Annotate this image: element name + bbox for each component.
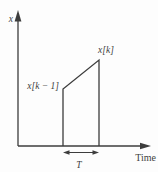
x-axis-label: Time: [135, 152, 156, 163]
interval-arrowhead-left-icon: [63, 150, 70, 154]
trapezoid-outline: [63, 60, 99, 146]
y-axis-arrowhead-icon: [15, 10, 22, 22]
interval-arrowhead-right-icon: [93, 150, 100, 154]
sample-previous-label: x[k − 1]: [26, 81, 59, 91]
figure-svg: x Time x[k] x[k − 1] T: [0, 0, 158, 172]
sample-current-label: x[k]: [97, 45, 114, 55]
sampled-signal-figure: x Time x[k] x[k − 1] T: [0, 0, 158, 172]
x-axis-arrowhead-icon: [140, 143, 151, 149]
interval-label: T: [76, 160, 82, 170]
y-axis-label: x: [8, 14, 14, 24]
